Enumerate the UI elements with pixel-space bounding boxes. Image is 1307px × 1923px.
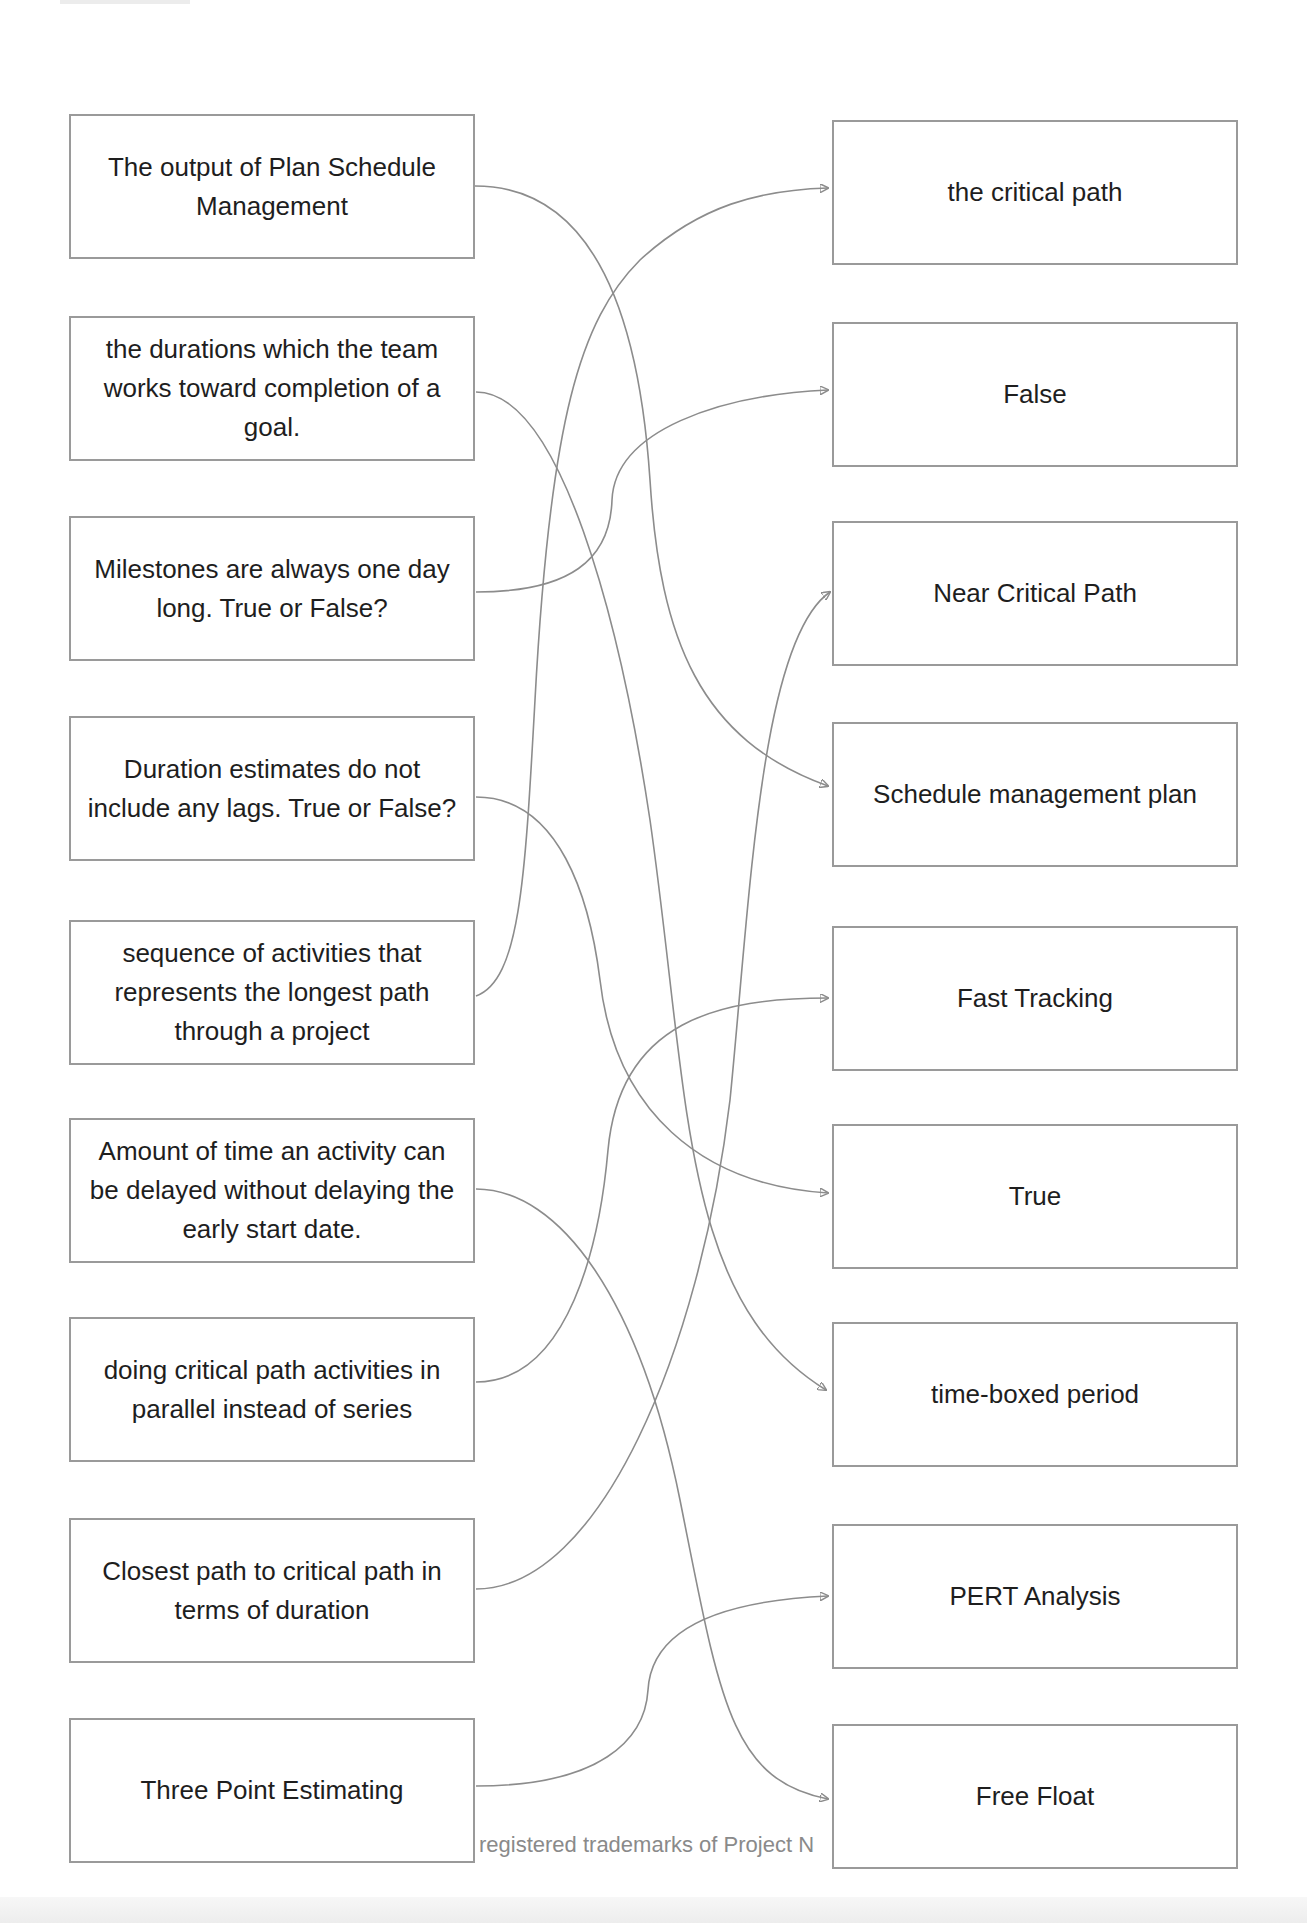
right-answer-text: Free Float [976, 1777, 1095, 1816]
connector-l3-r2 [476, 390, 828, 592]
connector-l2-r7 [476, 392, 826, 1390]
right-answer-text: True [1009, 1177, 1062, 1216]
right-answer-box-6[interactable]: True [832, 1124, 1238, 1269]
left-term-box-7[interactable]: doing critical path activities in parall… [69, 1317, 475, 1462]
right-answer-text: PERT Analysis [949, 1577, 1120, 1616]
left-term-box-9[interactable]: Three Point Estimating [69, 1718, 475, 1863]
left-term-box-4[interactable]: Duration estimates do not include any la… [69, 716, 475, 861]
left-term-text: sequence of activities that represents t… [85, 934, 459, 1051]
left-term-box-6[interactable]: Amount of time an activity can be delaye… [69, 1118, 475, 1263]
bottom-page-edge [0, 1897, 1307, 1923]
connector-l4-r6 [476, 797, 828, 1193]
cropped-header-fragment [60, 0, 190, 4]
right-answer-box-4[interactable]: Schedule management plan [832, 722, 1238, 867]
right-answer-box-1[interactable]: the critical path [832, 120, 1238, 265]
connector-l8-r3 [476, 592, 830, 1589]
connector-l1-r4 [475, 186, 828, 786]
connector-l7-r5 [476, 998, 828, 1382]
left-term-box-5[interactable]: sequence of activities that represents t… [69, 920, 475, 1065]
right-answer-box-7[interactable]: time-boxed period [832, 1322, 1238, 1467]
left-term-box-3[interactable]: Milestones are always one day long. True… [69, 516, 475, 661]
left-term-text: doing critical path activities in parall… [85, 1351, 459, 1429]
left-term-text: Closest path to critical path in terms o… [85, 1552, 459, 1630]
connector-l6-r9 [476, 1189, 828, 1799]
left-term-text: Amount of time an activity can be delaye… [85, 1132, 459, 1249]
footer-trademark-text: registered trademarks of Project N [479, 1832, 824, 1858]
left-term-text: Three Point Estimating [140, 1771, 403, 1810]
right-answer-box-9[interactable]: Free Float [832, 1724, 1238, 1869]
left-term-box-8[interactable]: Closest path to critical path in terms o… [69, 1518, 475, 1663]
left-term-text: Milestones are always one day long. True… [85, 550, 459, 628]
right-answer-box-3[interactable]: Near Critical Path [832, 521, 1238, 666]
left-term-text: the durations which the team works towar… [85, 330, 459, 447]
right-answer-box-5[interactable]: Fast Tracking [832, 926, 1238, 1071]
right-answer-text: the critical path [948, 173, 1123, 212]
right-answer-text: Schedule management plan [873, 775, 1197, 814]
left-term-text: The output of Plan Schedule Management [85, 148, 459, 226]
right-answer-box-8[interactable]: PERT Analysis [832, 1524, 1238, 1669]
left-term-box-1[interactable]: The output of Plan Schedule Management [69, 114, 475, 259]
right-answer-text: Fast Tracking [957, 979, 1113, 1018]
left-term-box-2[interactable]: the durations which the team works towar… [69, 316, 475, 461]
right-answer-text: time-boxed period [931, 1375, 1139, 1414]
connector-l9-r8 [476, 1596, 828, 1786]
connector-l5-r1 [476, 188, 828, 996]
right-answer-text: False [1003, 375, 1067, 414]
right-answer-text: Near Critical Path [933, 574, 1137, 613]
left-term-text: Duration estimates do not include any la… [85, 750, 459, 828]
right-answer-box-2[interactable]: False [832, 322, 1238, 467]
